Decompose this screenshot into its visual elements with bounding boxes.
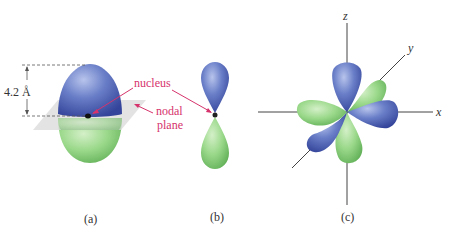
nodal-plane-label-line2: plane bbox=[157, 119, 183, 131]
nodal-plane-label-line1: nodal bbox=[156, 105, 183, 117]
orbital-diagram bbox=[0, 0, 451, 238]
nucleus-dot bbox=[85, 114, 91, 119]
y-axis-label: y bbox=[408, 42, 413, 54]
nucleus-label: nucleus bbox=[134, 77, 171, 89]
caption-c: (c) bbox=[341, 211, 354, 223]
panel-c-orbital bbox=[258, 23, 433, 205]
caption-a: (a) bbox=[84, 213, 97, 225]
nucleus-dot bbox=[213, 113, 218, 118]
upper-lobe bbox=[58, 64, 122, 117]
green-under-plane bbox=[58, 118, 122, 130]
distance-label: 4.2 Å bbox=[4, 86, 31, 98]
upper-lobe bbox=[201, 62, 229, 113]
x-axis-label: x bbox=[436, 106, 441, 118]
lower-lobe bbox=[201, 117, 229, 169]
z-axis-label: z bbox=[343, 10, 348, 22]
caption-b: (b) bbox=[210, 211, 224, 223]
